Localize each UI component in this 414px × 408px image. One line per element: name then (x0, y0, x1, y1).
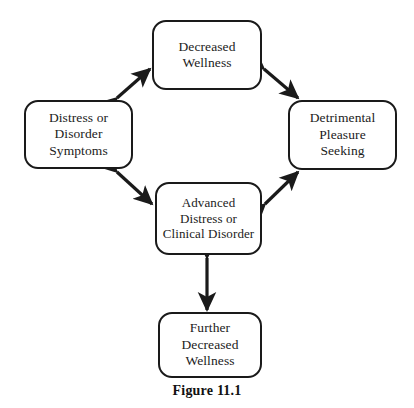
top-left-connector (117, 69, 150, 98)
top-right-connector (264, 69, 298, 98)
node-further-decreased-wellness: Further Decreased Wellness (158, 312, 262, 378)
node-label-line: Wellness (182, 55, 231, 71)
node-label-line: Symptoms (49, 143, 108, 159)
node-label-line: Advanced (182, 195, 236, 211)
node-distress-or-disorder-symptoms: Distress or Disorder Symptoms (24, 100, 133, 169)
node-label-line: Detrimental (310, 110, 376, 126)
node-label-line: Decreased (178, 39, 235, 55)
node-label-line: Pleasure (319, 127, 366, 143)
bottom-left-connector (117, 172, 152, 204)
bottom-right-connector (265, 172, 298, 204)
node-label-line: Disorder (54, 126, 102, 142)
node-label-line: Distress or (49, 110, 108, 126)
node-label-line: Seeking (320, 143, 364, 159)
node-advanced-distress-or-clinical-disorder: Advanced Distress or Clinical Disorder (155, 182, 262, 255)
node-label-line: Further (190, 320, 230, 336)
node-label-line: Decreased (181, 337, 238, 353)
figure-caption: Figure 11.1 (0, 383, 414, 399)
node-label-line: Distress or (180, 211, 237, 227)
node-decreased-wellness: Decreased Wellness (152, 20, 262, 90)
node-detrimental-pleasure-seeking: Detrimental Pleasure Seeking (288, 100, 397, 170)
node-label-line: Clinical Disorder (163, 226, 255, 242)
node-label-line: Wellness (185, 353, 234, 369)
figure-diagram: Decreased Wellness Distress or Disorder … (0, 0, 414, 408)
